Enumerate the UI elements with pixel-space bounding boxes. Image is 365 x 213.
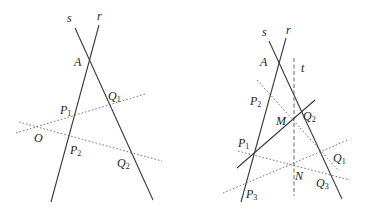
label-q3-right: Q3 <box>316 177 329 191</box>
label-p2-left: P2 <box>70 144 81 158</box>
label-p1-left: P1 <box>60 104 71 118</box>
label-q2-left: Q2 <box>117 157 130 171</box>
label-o-left: O <box>34 132 43 144</box>
label-p1-right-sub: 1 <box>245 142 249 151</box>
label-m-right: M <box>276 115 286 127</box>
label-r-left: r <box>97 10 102 22</box>
label-q1-right-sub: 1 <box>342 157 346 166</box>
right-figure <box>223 38 350 202</box>
label-q2-right: Q2 <box>303 110 316 124</box>
label-r-right: r <box>286 24 291 36</box>
left-line-s <box>75 28 153 200</box>
left-line-r <box>51 25 99 202</box>
label-s-left: s <box>67 12 72 24</box>
label-p1-left-sub: 1 <box>67 109 71 118</box>
left-dotted-line-o-q1 <box>16 94 145 133</box>
label-n-right: N <box>295 170 303 182</box>
label-a-right: A <box>260 56 267 68</box>
label-q3-right-letter: Q <box>316 176 325 190</box>
label-p2-left-sub: 2 <box>77 149 81 158</box>
label-p2-right-sub: 2 <box>257 100 261 109</box>
left-figure <box>16 25 162 202</box>
label-p3-right: P3 <box>246 188 257 202</box>
label-t-right: t <box>301 62 304 74</box>
label-q2-right-sub: 2 <box>312 115 316 124</box>
label-q3-right-sub: 3 <box>325 182 329 191</box>
label-q1-left-sub: 1 <box>117 95 121 104</box>
label-p2-right: P2 <box>250 95 261 109</box>
label-p1-right: P1 <box>238 137 249 151</box>
label-a-left: A <box>74 56 81 68</box>
diagram-canvas <box>0 0 365 213</box>
label-q2-left-sub: 2 <box>126 162 130 171</box>
label-q1-right: Q1 <box>333 152 346 166</box>
label-s-right: s <box>262 26 267 38</box>
label-q2-left-letter: Q <box>117 156 126 170</box>
label-q1-right-letter: Q <box>333 151 342 165</box>
label-p3-right-sub: 3 <box>253 193 257 202</box>
right-dotted-line-p2-q1 <box>257 80 338 170</box>
label-q1-left: Q1 <box>108 90 121 104</box>
label-q2-right-letter: Q <box>303 109 312 123</box>
label-q1-left-letter: Q <box>108 89 117 103</box>
